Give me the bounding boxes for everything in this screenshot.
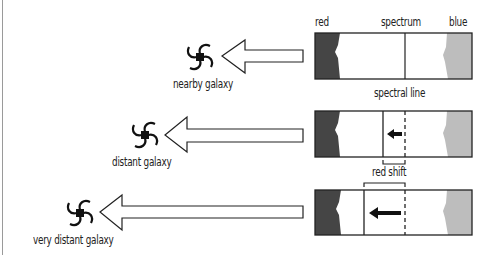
spectrum-box bbox=[315, 111, 472, 157]
spectrum-label: spectrum bbox=[381, 15, 421, 29]
galaxy-icon bbox=[68, 201, 92, 225]
shift-bracket bbox=[383, 160, 405, 164]
spectrum-box bbox=[315, 33, 472, 79]
galaxy-icon bbox=[188, 45, 212, 69]
row-nearby bbox=[188, 33, 472, 79]
redshift-diagram bbox=[0, 0, 486, 255]
galaxy-label-nearby: nearby galaxy bbox=[173, 77, 233, 91]
row-distant bbox=[133, 111, 472, 164]
big-arrow-left bbox=[100, 195, 303, 230]
big-arrow-left bbox=[222, 40, 303, 73]
red-label: red bbox=[315, 15, 329, 29]
shift-bracket bbox=[364, 183, 405, 187]
red-shift-label: red shift bbox=[372, 165, 406, 179]
galaxy-label-distant: distant galaxy bbox=[112, 155, 171, 169]
galaxy-icon bbox=[133, 123, 157, 147]
galaxy-label-very-distant: very distant galaxy bbox=[33, 233, 114, 247]
blue-label: blue bbox=[449, 15, 467, 29]
spectrum-box bbox=[315, 190, 472, 235]
row-very-distant bbox=[68, 183, 472, 235]
spectral-line-label: spectral line bbox=[374, 86, 425, 100]
big-arrow-left bbox=[165, 117, 303, 152]
